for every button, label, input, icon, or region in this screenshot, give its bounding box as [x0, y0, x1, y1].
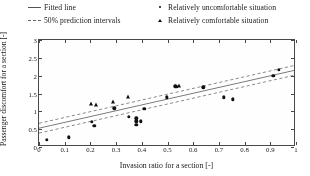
data-point-comfortable	[89, 101, 93, 105]
legend-item-comfortable: Relatively comfortable situation	[156, 14, 306, 27]
x-tick	[142, 142, 143, 145]
legend-label: Relatively uncomfortable situation	[165, 1, 276, 14]
x-tick	[245, 142, 246, 145]
x-tick-top	[296, 40, 297, 43]
legend-label: Relatively comfortable situation	[165, 14, 268, 27]
y-tick-right	[291, 40, 294, 41]
filled-triangle-marker-icon	[156, 16, 165, 25]
x-tick	[65, 142, 66, 145]
x-tick	[39, 142, 40, 145]
y-tick	[39, 129, 42, 130]
x-tick-label: 1	[294, 146, 297, 153]
plot-area: 00.511.522.53 00.10.20.30.40.50.60.70.80…	[38, 39, 295, 146]
y-tick	[39, 111, 42, 112]
x-tick-top	[90, 40, 91, 43]
y-tick-right	[291, 111, 294, 112]
x-tick-top	[142, 40, 143, 43]
data-point-comfortable	[126, 95, 130, 99]
y-tick-label: 2.5	[29, 54, 38, 61]
x-tick	[90, 142, 91, 145]
data-point-comfortable	[177, 84, 181, 88]
y-tick-label: 1.5	[29, 90, 38, 97]
x-tick-label: 0.1	[60, 146, 69, 153]
y-tick-right	[291, 94, 294, 95]
legend-item-prediction-intervals: 50% prediction intervals	[28, 14, 156, 27]
upper-prediction-interval-line	[39, 66, 294, 124]
plot-inner	[39, 40, 294, 145]
x-tick-label: 0.7	[215, 146, 224, 153]
x-tick-top	[219, 40, 220, 43]
y-axis-title: Passenger discomfort for a section [-]	[0, 39, 11, 146]
data-point-comfortable	[94, 103, 98, 107]
x-tick	[219, 142, 220, 145]
x-tick-top	[193, 40, 194, 43]
x-tick	[116, 142, 117, 145]
x-axis-title: Invasion ratio for a section [-]	[38, 161, 295, 170]
scatter-chart-figure: Fitted line Relatively uncomfortable sit…	[0, 0, 310, 176]
lower-prediction-interval-line	[39, 75, 294, 133]
y-tick-right	[291, 129, 294, 130]
x-tick-top	[168, 40, 169, 43]
y-tick-label: 3	[34, 37, 37, 44]
x-tick-label: 0	[37, 146, 40, 153]
x-tick-top	[270, 40, 271, 43]
data-point-comfortable	[111, 100, 115, 104]
legend-label: 50% prediction intervals	[41, 14, 120, 27]
x-tick-label: 0.9	[266, 146, 275, 153]
filled-circle-marker-icon	[156, 3, 165, 12]
y-tick	[39, 76, 42, 77]
x-tick-label: 0.2	[86, 146, 95, 153]
x-tick-top	[39, 40, 40, 43]
x-tick	[193, 142, 194, 145]
y-tick-label: 0.5	[29, 126, 38, 133]
legend-item-uncomfortable: Relatively uncomfortable situation	[156, 1, 306, 14]
y-tick-right	[291, 76, 294, 77]
x-tick-label: 0.5	[163, 146, 172, 153]
x-tick-label: 0.3	[112, 146, 121, 153]
fit-and-interval-lines	[39, 40, 294, 145]
x-tick-label: 0.8	[240, 146, 249, 153]
legend-label: Fitted line	[41, 1, 76, 14]
fitted-line	[39, 70, 294, 128]
x-tick-top	[116, 40, 117, 43]
chart-legend: Fitted line Relatively uncomfortable sit…	[28, 1, 306, 27]
x-tick-label: 0.6	[189, 146, 198, 153]
x-tick-top	[245, 40, 246, 43]
dashed-line-swatch-icon	[28, 16, 41, 25]
solid-line-swatch-icon	[28, 3, 41, 12]
y-tick	[39, 94, 42, 95]
legend-item-fitted-line: Fitted line	[28, 1, 156, 14]
x-tick	[168, 142, 169, 145]
y-tick-right	[291, 58, 294, 59]
y-tick-label: 2	[34, 72, 37, 79]
y-tick	[39, 58, 42, 59]
x-tick	[296, 142, 297, 145]
y-tick-label: 1	[34, 108, 37, 115]
x-tick-label: 0.4	[138, 146, 147, 153]
x-tick	[270, 142, 271, 145]
x-tick-top	[65, 40, 66, 43]
